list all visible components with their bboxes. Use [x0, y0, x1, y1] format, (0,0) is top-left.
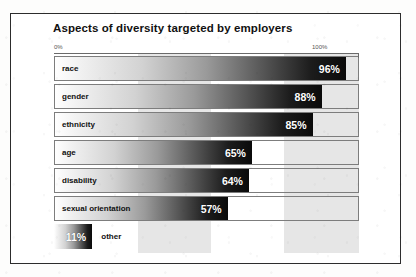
bar-value-label: 65%	[225, 147, 246, 159]
bar-category-label: sexual orientation	[62, 197, 130, 220]
bar-value-label: 57%	[201, 203, 222, 215]
bar-category-label: gender	[62, 85, 89, 108]
bar-row[interactable]: 11% other	[54, 224, 359, 249]
bar-row[interactable]: 96% race	[54, 56, 359, 81]
plot-area: 96% race 88% gender 85% ethnicity 65%	[54, 53, 359, 253]
bar-fill: 96%	[55, 57, 346, 80]
bar-category-label: disability	[62, 169, 97, 192]
bar-value-label: 96%	[319, 63, 340, 75]
bar-category-label: age	[62, 141, 76, 164]
bar-category-label: other	[101, 224, 121, 249]
bar-row[interactable]: 65% age	[54, 140, 359, 165]
axis-end-tick	[358, 53, 359, 58]
bar-category-label: ethnicity	[62, 113, 95, 136]
axis-tick-label-end: 100%	[312, 44, 327, 50]
chart-title: Aspects of diversity targeted by employe…	[53, 22, 292, 34]
bar-row[interactable]: 85% ethnicity	[54, 112, 359, 137]
bar-value-label: 88%	[295, 91, 316, 103]
bar-value-label: 85%	[286, 119, 307, 131]
bar-row[interactable]: 64% disability	[54, 168, 359, 193]
chart-figure-frame: Aspects of diversity targeted by employe…	[10, 13, 401, 264]
bar-value-label: 64%	[222, 175, 243, 187]
bar-fill: 65%	[55, 141, 252, 164]
bar-fill: 11%	[54, 224, 92, 249]
axis-line	[54, 53, 359, 54]
bar-category-label: race	[62, 57, 78, 80]
bar-value-label: 11%	[66, 231, 86, 243]
bar-row[interactable]: 88% gender	[54, 84, 359, 109]
bar-row[interactable]: 57% sexual orientation	[54, 196, 359, 221]
bar-fill: 88%	[55, 85, 322, 108]
bar-rows: 96% race 88% gender 85% ethnicity 65%	[54, 56, 359, 252]
axis-tick-label-start: 0%	[54, 44, 63, 50]
